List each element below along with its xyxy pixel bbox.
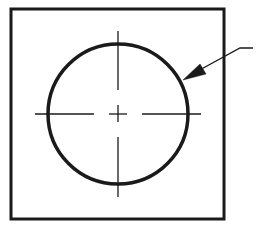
- arrowhead-icon: [183, 64, 206, 80]
- leader-arrow: [183, 48, 253, 80]
- technical-drawing: [0, 0, 262, 234]
